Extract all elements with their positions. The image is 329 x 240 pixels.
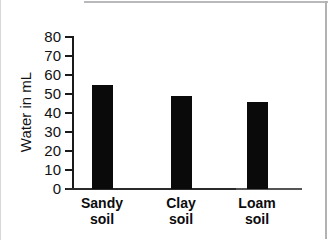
y-axis-title: Water in mL bbox=[18, 42, 34, 182]
y-axis-tick-label-text: 10 bbox=[33, 162, 61, 177]
y-axis-tick-label: 40 bbox=[33, 105, 61, 120]
bar bbox=[92, 85, 113, 190]
y-axis-tick-label-text: 70 bbox=[33, 48, 61, 63]
y-axis-tick-label: 70 bbox=[33, 48, 61, 63]
y-axis-tick-label-text: 20 bbox=[33, 143, 61, 158]
bar bbox=[247, 102, 268, 189]
chart-figure: Water in mL 01020304050607080 Sandy soil… bbox=[0, 0, 329, 240]
y-axis-tick-label-text: 40 bbox=[33, 105, 61, 120]
plot-area: Water in mL 01020304050607080 Sandy soil… bbox=[0, 0, 329, 240]
y-axis-tick-label: 80 bbox=[33, 29, 61, 44]
y-axis-tick-label-text: 50 bbox=[33, 86, 61, 101]
y-axis-line bbox=[72, 36, 74, 189]
y-axis-tick-label: 0 bbox=[33, 181, 61, 196]
y-axis-tick-label: 10 bbox=[33, 162, 61, 177]
y-axis-tick-label-text: 0 bbox=[33, 181, 61, 196]
x-axis-category-label: Sandy soil bbox=[57, 196, 147, 227]
y-axis-tick-label-text: 60 bbox=[33, 67, 61, 82]
bar bbox=[171, 96, 192, 189]
y-axis-tick-label: 30 bbox=[33, 124, 61, 139]
y-axis-tick-label: 50 bbox=[33, 86, 61, 101]
y-axis-tick-label-text: 30 bbox=[33, 124, 61, 139]
y-axis-tick-label: 60 bbox=[33, 67, 61, 82]
y-axis-tick-label-text: 80 bbox=[33, 29, 61, 44]
y-axis-tick-label: 20 bbox=[33, 143, 61, 158]
x-axis-category-label: Loam soil bbox=[212, 196, 302, 227]
